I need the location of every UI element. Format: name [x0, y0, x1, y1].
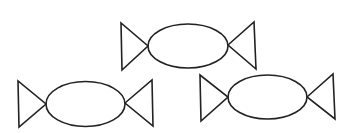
candy-diagram — [0, 0, 355, 133]
